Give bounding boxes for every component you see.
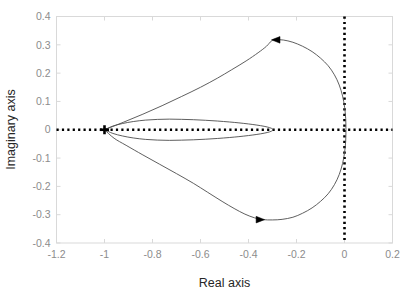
- y-tick-label-6: 0.2: [36, 67, 51, 79]
- y-tick-label-5: 0.1: [36, 95, 51, 107]
- x-tick-label-2: -0.8: [143, 248, 161, 260]
- x-axis-title: Real axis: [199, 276, 250, 290]
- y-tick-label-4: 0: [45, 123, 51, 135]
- chart-canvas: -1.2-1-0.8-0.6-0.4-0.200.2 -0.4-0.3-0.2-…: [0, 0, 415, 295]
- x-tick-label-3: -0.6: [191, 248, 209, 260]
- y-tick-label-0: -0.4: [32, 237, 50, 249]
- y-axis-title: Imaginary axis: [4, 89, 18, 170]
- y-tick-label-7: 0.3: [36, 39, 51, 51]
- y-tick-label-1: -0.3: [32, 208, 50, 220]
- x-tick-label-1: -1: [100, 248, 109, 260]
- x-tick-label-0: -1.2: [47, 248, 65, 260]
- x-tick-label-5: -0.2: [287, 248, 305, 260]
- x-tick-label-7: 0.2: [385, 248, 400, 260]
- y-tick-label-2: -0.2: [32, 180, 50, 192]
- x-tick-label-4: -0.4: [239, 248, 257, 260]
- y-tick-label-3: -0.1: [32, 152, 50, 164]
- y-tick-label-8: 0.4: [36, 10, 51, 22]
- nyquist-plot-figure: -1.2-1-0.8-0.6-0.4-0.200.2 -0.4-0.3-0.2-…: [0, 0, 415, 295]
- x-tick-label-6: 0: [342, 248, 348, 260]
